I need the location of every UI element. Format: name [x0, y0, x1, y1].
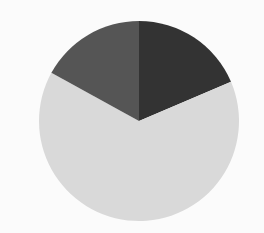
pie-chart: [0, 0, 264, 233]
pie-chart-canvas: [0, 0, 264, 233]
pie-slices: [39, 21, 239, 221]
